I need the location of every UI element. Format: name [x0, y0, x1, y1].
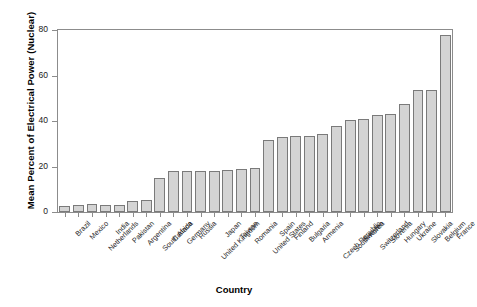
y-tick-label: 0 — [24, 206, 48, 216]
bar — [413, 90, 424, 212]
bar-series — [58, 30, 452, 212]
y-tick-mark — [52, 121, 57, 122]
bar — [222, 170, 233, 212]
y-tick-label: 60 — [24, 70, 48, 80]
x-tick-mark — [255, 213, 256, 217]
x-tick-mark — [65, 213, 66, 217]
y-tick-label: 80 — [24, 24, 48, 34]
bar — [141, 200, 152, 212]
x-tick-mark — [432, 213, 433, 217]
bar — [440, 35, 451, 212]
y-tick-mark — [52, 167, 57, 168]
x-tick-mark — [78, 213, 79, 217]
bar — [127, 201, 138, 212]
x-tick-mark — [146, 213, 147, 217]
bar — [426, 90, 437, 212]
x-axis-title: Country — [0, 284, 468, 295]
bar — [263, 140, 274, 212]
x-tick-mark — [309, 213, 310, 217]
bar — [168, 171, 179, 212]
y-axis-title: Mean Percent of Electrical Power (Nuclea… — [25, 11, 36, 211]
bar — [345, 120, 356, 212]
x-tick-mark — [133, 213, 134, 217]
x-tick-mark — [269, 213, 270, 217]
x-tick-mark — [323, 213, 324, 217]
y-tick-mark — [52, 76, 57, 77]
bar — [182, 171, 193, 212]
x-tick-mark — [173, 213, 174, 217]
x-tick-label-text: Russia — [197, 219, 219, 241]
bar — [290, 136, 301, 212]
bar — [87, 204, 98, 212]
x-tick-mark — [377, 213, 378, 217]
x-tick-mark — [187, 213, 188, 217]
x-tick-mark — [296, 213, 297, 217]
x-tick-mark — [391, 213, 392, 217]
x-tick-mark — [106, 213, 107, 217]
bar — [250, 168, 261, 212]
x-tick-mark — [445, 213, 446, 217]
bar — [100, 205, 111, 212]
x-tick-mark — [92, 213, 93, 217]
bar — [195, 171, 206, 212]
x-tick-mark — [241, 213, 242, 217]
bar — [114, 205, 125, 213]
bar — [331, 126, 342, 212]
x-tick-mark — [364, 213, 365, 217]
bar — [236, 169, 247, 212]
x-tick-mark — [201, 213, 202, 217]
x-tick-label: Russia — [197, 219, 219, 241]
bar — [277, 137, 288, 212]
x-tick-mark — [160, 213, 161, 217]
x-tick-mark — [350, 213, 351, 217]
x-tick-label: Mexico — [88, 219, 110, 241]
x-tick-mark — [418, 213, 419, 217]
bar — [317, 134, 328, 212]
bar — [73, 205, 84, 212]
bar — [399, 104, 410, 212]
bar — [154, 178, 165, 212]
y-tick-mark — [52, 212, 57, 213]
bar — [59, 206, 70, 212]
x-tick-label-text: Mexico — [88, 219, 110, 241]
x-tick-mark — [282, 213, 283, 217]
bar — [304, 136, 315, 212]
y-tick-mark — [52, 30, 57, 31]
bar — [372, 115, 383, 212]
x-tick-mark — [228, 213, 229, 217]
y-tick-label: 20 — [24, 161, 48, 171]
bar — [358, 119, 369, 212]
x-tick-mark — [404, 213, 405, 217]
y-tick-label: 40 — [24, 115, 48, 125]
x-tick-mark — [337, 213, 338, 217]
x-tick-mark — [214, 213, 215, 217]
bar — [385, 114, 396, 212]
x-tick-mark — [119, 213, 120, 217]
bar — [209, 171, 220, 212]
